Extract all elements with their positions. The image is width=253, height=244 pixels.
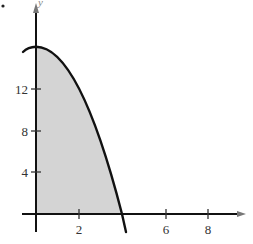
x-axis-arrow-icon xyxy=(237,211,246,217)
y-tick-label-8: 8 xyxy=(22,124,29,139)
x-tick-label-2: 2 xyxy=(76,222,83,237)
y-axis-label: y xyxy=(37,0,43,8)
bullet-dot xyxy=(1,4,4,7)
x-tick-label-8: 8 xyxy=(205,222,212,237)
chart-canvas: y 12 8 4 2 6 8 xyxy=(0,0,253,244)
x-tick-label-6: 6 xyxy=(163,222,170,237)
y-tick-label-12: 12 xyxy=(15,82,28,97)
y-tick-label-4: 4 xyxy=(22,165,29,180)
shaded-region xyxy=(36,47,122,214)
